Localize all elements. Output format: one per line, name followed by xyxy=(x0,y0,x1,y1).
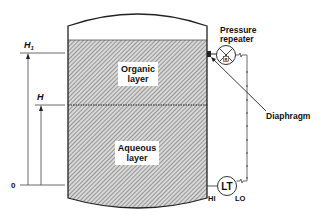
svg-text:Organic: Organic xyxy=(121,64,155,74)
diaphragm-nozzle xyxy=(207,51,211,57)
level-references xyxy=(20,53,65,185)
diaphragm-label: Diaphragm xyxy=(266,111,311,121)
capillary-line xyxy=(236,53,248,183)
svg-text:layer: layer xyxy=(127,74,149,84)
h-label: H xyxy=(37,92,44,102)
hi-label: HI xyxy=(208,194,216,203)
svg-text:R: R xyxy=(225,57,228,62)
zero-label: 0 xyxy=(11,181,16,190)
svg-text:layer: layer xyxy=(126,153,148,163)
organic-layer-label: Organic layer xyxy=(118,62,158,86)
aqueous-layer-label: Aqueous layer xyxy=(115,141,159,165)
lo-label: LO xyxy=(235,194,246,203)
h1-arrow-head xyxy=(26,53,30,59)
interface-level-diagram: Organic layer Aqueous layer H1 H 0 R Pre… xyxy=(0,0,329,221)
pressure-repeater-label-2: repeater xyxy=(220,34,254,44)
svg-text:LT: LT xyxy=(221,181,232,192)
svg-text:Aqueous: Aqueous xyxy=(118,143,157,153)
diaphragm-leader xyxy=(213,59,266,111)
level-transmitter: LT xyxy=(218,177,237,196)
h-arrow-head xyxy=(39,105,43,111)
h1-label: H1 xyxy=(24,40,35,51)
pressure-repeater: R xyxy=(217,46,236,65)
